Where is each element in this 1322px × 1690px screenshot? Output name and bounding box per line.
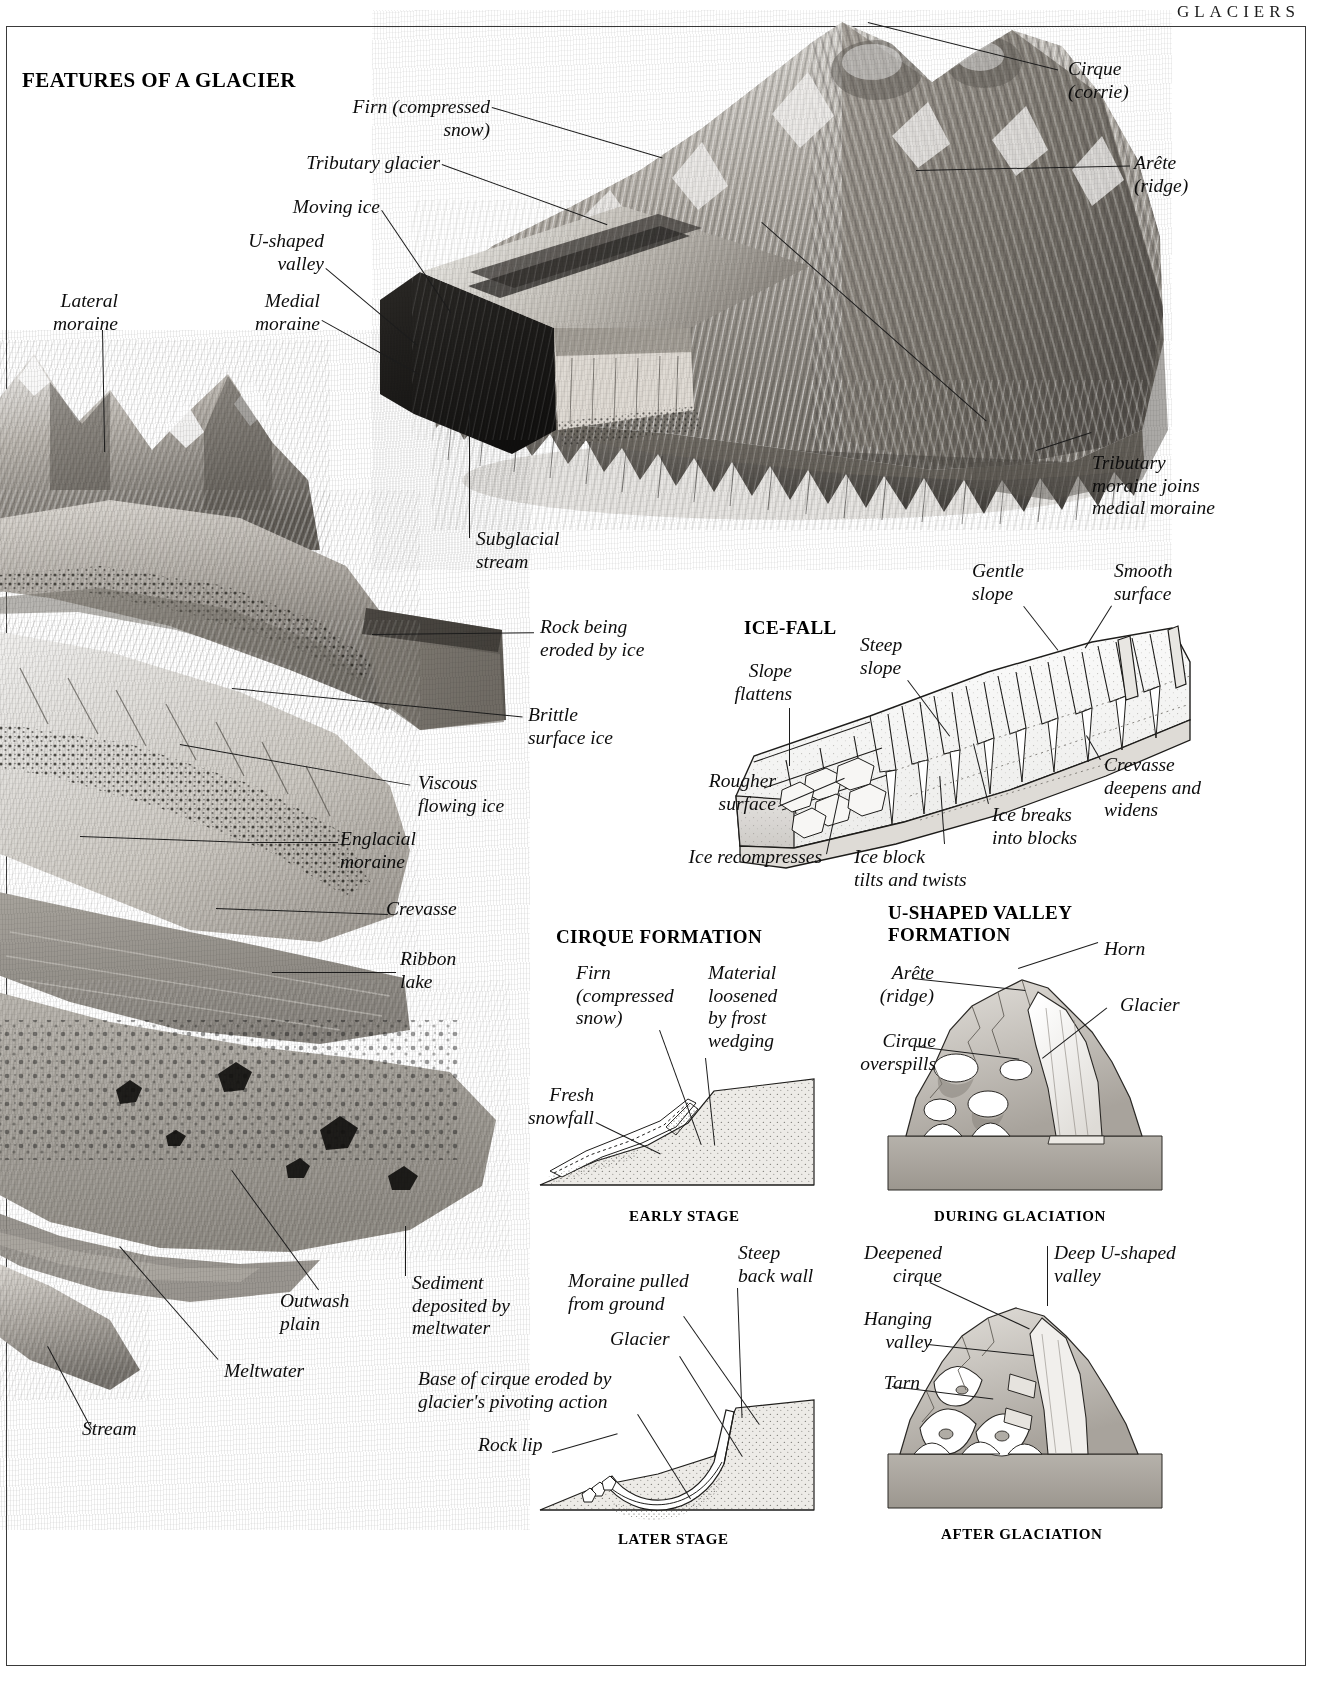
label-fresh-snowfall: Fresh snowfall [470,1084,594,1129]
label-moving-ice: Moving ice [250,196,380,219]
label-cirque: Cirque (corrie) [1068,58,1218,103]
caption-later-stage: LATER STAGE [618,1531,729,1548]
label-deepened-cirque: Deepened cirque [800,1242,942,1287]
caption-during-glaciation: DURING GLACIATION [934,1208,1106,1225]
label-stream: Stream [82,1418,202,1441]
leader-englacial-moraine [256,842,338,843]
label-viscous-flowing-ice: Viscous flowing ice [418,772,598,817]
leader-deep-ushaped-valley [1047,1246,1048,1306]
label-lateral-moraine: Lateral moraine [0,290,118,335]
label-medial-moraine: Medial moraine [190,290,320,335]
label-tributary-moraine: Tributary moraine joins medial moraine [1092,452,1302,520]
label-tarn: Tarn [810,1372,920,1395]
label-meltwater: Meltwater [224,1360,364,1383]
label-hanging-valley: Hanging valley [808,1308,932,1353]
section-title-features: FEATURES OF A GLACIER [22,68,296,93]
label-steep-slope: Steep slope [860,634,970,679]
label-base-of-cirque: Base of cirque eroded by glacier's pivot… [418,1368,678,1413]
label-cirque-overspills: Cirque overspills [800,1030,936,1075]
label-englacial-moraine: Englacial moraine [340,828,500,873]
running-head: GLACIERS [1177,2,1300,22]
label-firn: Firn (compressed snow) [300,96,490,141]
label-subglacial-stream: Subglacial stream [476,528,636,573]
label-gentle-slope: Gentle slope [972,560,1092,605]
label-brittle-surface-ice: Brittle surface ice [528,704,688,749]
label-horn: Horn [1104,938,1194,961]
label-ushaped-glacier: Glacier [1120,994,1230,1017]
leader-slope-flattens [789,708,790,766]
label-rock-being-eroded: Rock being eroded by ice [540,616,730,661]
label-deep-ushaped-valley: Deep U-shaped valley [1054,1242,1244,1287]
label-outwash-plain: Outwash plain [280,1290,420,1335]
label-ushaped-arete: Arête (ridge) [816,962,934,1007]
label-cirque-glacier: Glacier [610,1328,710,1351]
label-moraine-pulled: Moraine pulled from ground [568,1270,758,1315]
label-cirque-firn: Firn (compressed snow) [576,962,710,1030]
label-ice-recompresses: Ice recompresses [660,846,822,869]
label-rougher-surface: Rougher surface [640,770,776,815]
leader-subglacial-stream [469,404,470,538]
section-title-icefall: ICE-FALL [744,617,837,639]
label-crevasse: Crevasse [386,898,526,921]
label-ice-breaks: Ice breaks into blocks [992,804,1142,849]
leader-ribbon-lake [272,972,396,973]
label-rock-lip: Rock lip [478,1434,578,1457]
label-smooth-surface: Smooth surface [1114,560,1244,605]
label-slope-flattens: Slope flattens [680,660,792,705]
section-title-ushaped-valley-formation: U-SHAPED VALLEY FORMATION [888,902,1072,947]
leader-sediment-meltwater [405,1226,406,1276]
label-ice-block-tilts: Ice block tilts and twists [854,846,1034,891]
glacier-valley-model [0,330,530,1530]
label-arete: Arête (ridge) [1134,152,1274,197]
section-title-cirque-formation: CIRQUE FORMATION [556,926,762,948]
caption-early-stage: EARLY STAGE [629,1208,740,1225]
label-ribbon-lake: Ribbon lake [400,948,530,993]
label-u-shaped-valley: U-shaped valley [206,230,324,275]
label-tributary-glacier: Tributary glacier [250,152,440,175]
caption-after-glaciation: AFTER GLACIATION [941,1526,1102,1543]
